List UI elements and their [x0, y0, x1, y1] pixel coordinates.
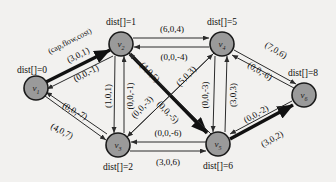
edge-v4-v5: [213, 56, 215, 132]
edge-label-v5-v3: (0,0,-6): [155, 128, 182, 138]
edge-v1-v3: [45, 96, 106, 140]
dist-label-v5: dist[]=6: [203, 161, 233, 171]
graph-figure: v1 v2 v3 v4 v5 v6 dist[]=0 dist[]=1 dist…: [0, 0, 336, 182]
dist-label-v3: dist[]=2: [103, 162, 133, 172]
edge-label-v3-v2: (0,0,-1): [125, 83, 135, 110]
edge-label-v2-v4: (6,0,4): [160, 24, 184, 34]
node-v4[interactable]: [210, 32, 234, 56]
node-v1[interactable]: [24, 76, 48, 100]
dist-label-v6: dist[]=8: [288, 68, 318, 78]
dist-label-v2: dist[]=1: [106, 17, 136, 27]
edge-label-v3-v5: (3,0,6): [156, 157, 180, 167]
dist-label-v4: dist[]=5: [207, 17, 237, 27]
node-v6[interactable]: [292, 83, 316, 107]
node-v3[interactable]: [106, 133, 130, 157]
node-v2[interactable]: [109, 32, 133, 56]
edge-label-v5-v4: (3,0,3): [228, 83, 238, 107]
node-v5[interactable]: [206, 132, 230, 156]
edge-label-v4-v5: (0,0,-3): [200, 82, 210, 109]
edge-label-v2-v3: (1,0,1): [103, 84, 113, 108]
edge-v2-v3: [114, 56, 115, 133]
edge-v5-v4: [225, 56, 227, 132]
edge-label-v4-v2: (0,0,-4): [161, 52, 188, 62]
dist-label-v1: dist[]=0: [17, 65, 47, 75]
